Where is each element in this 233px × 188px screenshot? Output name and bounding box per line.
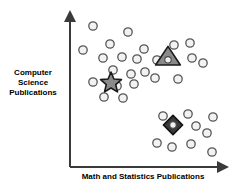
scatter-point bbox=[188, 54, 196, 62]
scatter-point bbox=[184, 110, 192, 118]
scatter-point bbox=[199, 59, 207, 67]
scatter-point bbox=[118, 53, 126, 61]
scatter-point bbox=[124, 28, 132, 36]
scatter-point bbox=[79, 46, 87, 54]
scatter-point bbox=[209, 113, 217, 121]
y-axis-label: Computer Science Publications bbox=[2, 68, 64, 98]
scatter-point bbox=[187, 140, 195, 148]
scatter-point bbox=[170, 41, 178, 49]
scatter-point bbox=[89, 78, 97, 86]
scatter-point bbox=[100, 93, 108, 101]
scatter-point bbox=[119, 94, 127, 102]
scatter-point bbox=[186, 39, 194, 47]
scatter-point bbox=[127, 70, 135, 78]
scatter-point bbox=[159, 112, 167, 120]
scatter-point bbox=[89, 22, 97, 30]
scatter-point bbox=[141, 68, 149, 76]
triangle-centroid-inner-circle bbox=[165, 57, 171, 63]
scatter-point bbox=[192, 122, 200, 130]
scatter-point bbox=[106, 40, 114, 48]
x-axis-label: Math and Statistics Publications bbox=[58, 172, 228, 182]
scatter-point bbox=[151, 74, 159, 82]
scatter-plot-figure: Computer Science Publications Math and S… bbox=[0, 0, 233, 188]
scatter-point bbox=[203, 129, 211, 137]
scatter-point bbox=[140, 45, 148, 53]
scatter-point bbox=[99, 54, 107, 62]
scatter-point bbox=[133, 55, 141, 63]
scatter-point bbox=[174, 75, 182, 83]
scatter-point bbox=[153, 139, 161, 147]
axes-group bbox=[70, 20, 219, 167]
scatter-point bbox=[130, 80, 138, 88]
data-points-group bbox=[79, 22, 217, 156]
scatter-point bbox=[168, 143, 176, 151]
diamond-centroid-inner-circle bbox=[170, 122, 176, 128]
scatter-point bbox=[208, 148, 216, 156]
